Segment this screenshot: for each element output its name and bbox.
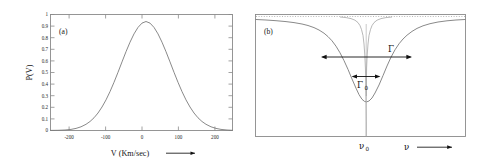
arrow-right-icon bbox=[417, 145, 452, 149]
gamma-narrow-label: Γ bbox=[357, 80, 363, 90]
panel-a-x-tick-labels: -200 -100 0 100 200 bbox=[64, 134, 219, 140]
panel-a-x-ticks bbox=[69, 15, 215, 131]
y-tick-label: 0.8 bbox=[42, 35, 49, 41]
panel-b-x-axis-label: ν bbox=[404, 142, 409, 152]
panel-a-tag: (a) bbox=[59, 27, 68, 36]
line-center-label-subscript: 0 bbox=[366, 146, 370, 152]
arrow-right-icon bbox=[166, 151, 195, 155]
panel-a-y-tick-labels: 1 0.9 0.8 0.7 0.6 0.5 0.4 0.3 0.2 0.1 0 bbox=[42, 11, 49, 133]
panel-b-tag: (b) bbox=[264, 27, 273, 36]
y-tick-label: 0.4 bbox=[42, 81, 49, 87]
panel-a: 1 0.9 0.8 0.7 0.6 0.5 0.4 0.3 0.2 0.1 0 bbox=[25, 11, 233, 158]
gaussian-curve bbox=[51, 22, 233, 131]
x-tick-label: -100 bbox=[101, 134, 111, 140]
panel-b-plot-frame bbox=[256, 15, 466, 137]
y-tick-label: 0.6 bbox=[42, 58, 49, 64]
y-tick-label: 1 bbox=[45, 11, 48, 17]
y-tick-label: 0 bbox=[45, 127, 48, 133]
x-tick-label: 0 bbox=[141, 134, 144, 140]
y-tick-label: 0.2 bbox=[42, 104, 49, 110]
line-center-label: ν bbox=[359, 141, 364, 151]
x-tick-label: -200 bbox=[64, 134, 74, 140]
panel-a-x-axis-label: V (Km/sec) bbox=[111, 149, 150, 158]
y-tick-label: 0.9 bbox=[42, 23, 49, 29]
gamma-narrow-label-subscript: 0 bbox=[365, 85, 369, 91]
gamma-broad-label: Γ bbox=[388, 44, 394, 54]
two-panel-figure: 1 0.9 0.8 0.7 0.6 0.5 0.4 0.3 0.2 0.1 0 bbox=[0, 0, 481, 166]
panel-a-plot-frame bbox=[51, 15, 233, 131]
figure-root: 1 0.9 0.8 0.7 0.6 0.5 0.4 0.3 0.2 0.1 0 bbox=[0, 0, 481, 166]
panel-b: Γ Γ 0 ν 0 ν (b) bbox=[256, 15, 466, 153]
y-tick-label: 0.3 bbox=[42, 93, 49, 99]
panel-a-y-axis-label: P(V) bbox=[25, 64, 34, 80]
x-tick-label: 200 bbox=[211, 134, 219, 140]
y-tick-label: 0.5 bbox=[42, 69, 49, 75]
panel-a-y-ticks bbox=[51, 15, 233, 131]
x-tick-label: 100 bbox=[175, 134, 183, 140]
y-tick-label: 0.1 bbox=[42, 116, 49, 122]
y-tick-label: 0.7 bbox=[42, 46, 49, 52]
